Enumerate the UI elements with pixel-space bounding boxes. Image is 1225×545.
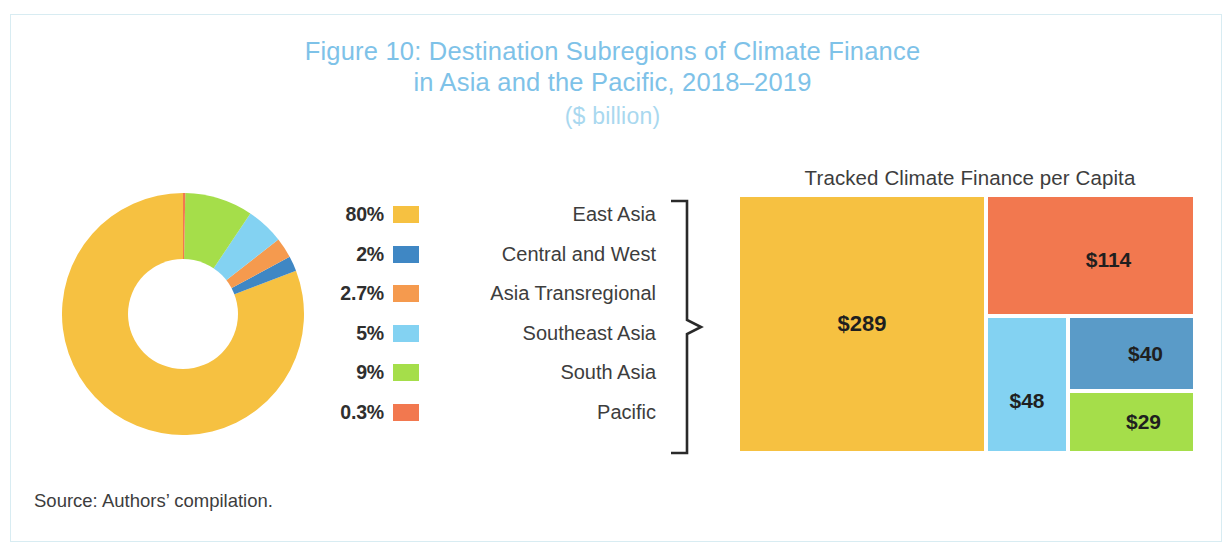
legend-label: Asia Transregional	[419, 282, 662, 305]
legend-color-swatch-central-and-west	[393, 246, 419, 263]
treemap-value: $114	[1086, 248, 1132, 272]
legend-item-pacific[interactable]: 0.3% Pacific	[322, 393, 662, 433]
figure-title-line-1: Figure 10: Destination Subregions of Cli…	[0, 36, 1225, 67]
donut-chart	[62, 193, 304, 435]
legend-percent: 2.7%	[322, 282, 384, 305]
treemap-cell-pacific[interactable]: $114	[988, 197, 1193, 314]
donut-center-hole	[128, 259, 238, 369]
legend-percent: 5%	[322, 322, 384, 345]
treemap-title: Tracked Climate Finance per Capita	[740, 166, 1200, 190]
legend-percent: 9%	[322, 361, 384, 384]
legend-item-south-asia[interactable]: 9% South Asia	[322, 353, 662, 393]
treemap-cell-southeast-asia[interactable]: $48	[988, 318, 1066, 451]
source-note: Source: Authors’ compilation.	[34, 490, 273, 512]
legend-percent: 2%	[322, 243, 384, 266]
legend-percent: 80%	[322, 203, 384, 226]
legend-label: East Asia	[419, 203, 662, 226]
treemap-value: $29	[1126, 410, 1161, 434]
legend-item-asia-transregional[interactable]: 2.7% Asia Transregional	[322, 274, 662, 314]
legend-item-central-and-west[interactable]: 2% Central and West	[322, 235, 662, 275]
treemap-cells: $289 $114 $48 $40 $29	[740, 197, 1193, 451]
legend-item-east-asia[interactable]: 80% East Asia	[322, 195, 662, 235]
treemap-value: $48	[1009, 389, 1044, 413]
figure-title-line-2: in Asia and the Pacific, 2018–2019	[0, 67, 1225, 98]
legend-label: Southeast Asia	[419, 322, 662, 345]
legend-label: Central and West	[419, 243, 662, 266]
legend-color-swatch-asia-transregional	[393, 285, 419, 302]
treemap-value: $289	[838, 311, 887, 337]
treemap-cell-central-and-west[interactable]: $40	[1070, 318, 1193, 389]
legend-label: Pacific	[419, 401, 662, 424]
legend-color-swatch-east-asia	[393, 206, 419, 223]
legend-color-swatch-southeast-asia	[393, 325, 419, 342]
figure-title-block: Figure 10: Destination Subregions of Cli…	[0, 36, 1225, 131]
treemap-value: $40	[1128, 342, 1163, 366]
curly-brace-icon	[668, 198, 704, 456]
legend-color-swatch-south-asia	[393, 364, 419, 381]
treemap-cell-south-asia[interactable]: $29	[1070, 393, 1193, 451]
donut-chart-svg	[62, 193, 304, 435]
treemap-cell-east-asia[interactable]: $289	[740, 197, 984, 451]
figure-title-unit: ($ billion)	[0, 101, 1225, 131]
chart-legend: 80% East Asia 2% Central and West 2.7% A…	[322, 195, 662, 432]
legend-color-swatch-pacific	[393, 404, 419, 421]
figure-container: Figure 10: Destination Subregions of Cli…	[0, 0, 1225, 545]
legend-item-southeast-asia[interactable]: 5% Southeast Asia	[322, 314, 662, 354]
treemap-chart: Tracked Climate Finance per Capita $289 …	[740, 166, 1200, 456]
legend-percent: 0.3%	[322, 401, 384, 424]
legend-label: South Asia	[419, 361, 662, 384]
